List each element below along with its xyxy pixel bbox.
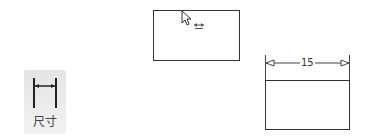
- arrow-cursor-icon: [181, 10, 193, 26]
- horizontal-dimension-hint-icon: [193, 22, 205, 30]
- dimension-tool-button[interactable]: 尺寸: [24, 70, 66, 134]
- rectangle-shape-dimensioned[interactable]: [265, 80, 350, 130]
- rectangle-shape-hovered[interactable]: [153, 10, 240, 61]
- dimension-tool-label: 尺寸: [24, 112, 66, 129]
- dimension-value[interactable]: 15: [300, 57, 315, 68]
- dimension-icon: [30, 76, 60, 110]
